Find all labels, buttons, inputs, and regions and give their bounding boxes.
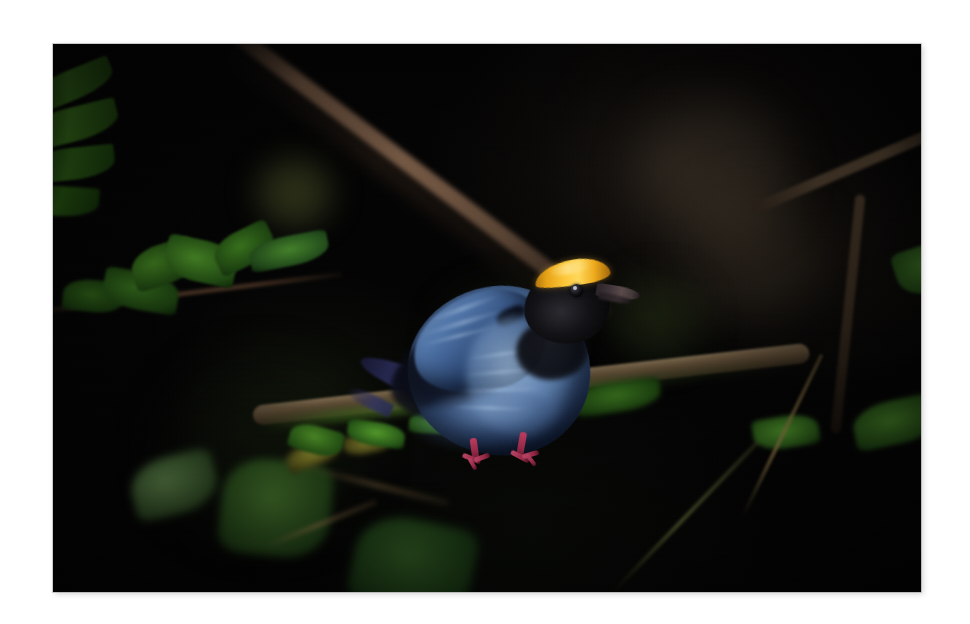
photograph	[53, 44, 921, 592]
bokeh-highlight-brown	[693, 194, 813, 314]
bird-tail-tip	[345, 384, 394, 418]
photo-page	[0, 0, 970, 624]
bird-subject	[338, 224, 638, 474]
bird-eye-glint	[573, 286, 577, 290]
bokeh-highlight-olive	[258, 159, 330, 225]
